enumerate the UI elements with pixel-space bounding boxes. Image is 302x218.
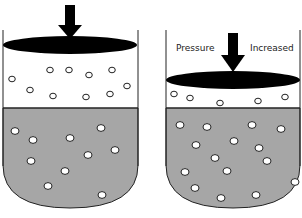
bubble [29,137,37,144]
down-arrow-icon [221,33,245,72]
bubble [66,135,74,142]
bubble [230,138,238,145]
bubble [61,168,69,175]
left-container [3,5,138,208]
bubble [187,95,194,101]
bubble [44,183,52,190]
bubble [203,124,211,131]
bubble [97,125,105,132]
bubble [217,100,224,106]
bubble [83,94,90,100]
right-container: Pressure Increased [166,30,300,208]
bubble [109,67,116,73]
bubble [282,94,289,100]
increased-label: Increased [250,43,294,53]
bubble [11,128,19,135]
bubble [84,152,92,159]
bubble [192,142,200,149]
bubble [86,72,93,78]
bubble [176,122,184,129]
bubble [211,155,219,162]
left-liquid [3,108,138,208]
bubble [47,67,54,73]
bubble [255,98,262,104]
bubble [181,169,189,176]
right-gas-bubbles [171,91,289,106]
bubble [27,87,34,93]
pressure-label: Pressure [176,43,215,53]
right-liquid [166,108,300,208]
bubble [66,67,73,73]
bubble [107,91,114,97]
bubble [255,145,263,152]
bubble [124,83,131,89]
bubble [291,179,299,186]
bubble [277,126,285,133]
left-gas-bubbles [9,67,131,100]
down-arrow-icon [58,5,82,39]
bubble [248,122,256,129]
bubble [9,76,16,82]
bubble [111,147,119,154]
right-piston [166,71,300,89]
bubble [171,91,178,97]
henry-law-diagram: Pressure Increased [0,0,302,218]
bubble [98,192,106,199]
bubble [252,192,260,199]
bubble [263,158,271,165]
bubble [191,185,199,192]
bubble [217,195,225,202]
bubble [223,168,231,175]
bubble [50,93,57,99]
bubble [27,158,35,165]
